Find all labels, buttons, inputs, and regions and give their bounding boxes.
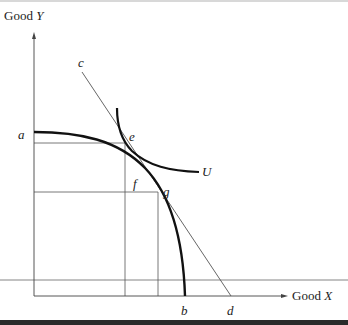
point-d-label: d: [227, 303, 234, 318]
point-g-label: g: [163, 184, 170, 199]
point-e-label: e: [129, 129, 135, 144]
bottom-border: [0, 320, 348, 325]
x-axis-arrow-icon: [281, 294, 288, 298]
y-axis-label: Good Y: [4, 8, 45, 23]
ppf-diagram: Good Y Good X a b c d e f g U: [0, 0, 348, 325]
point-a-label: a: [18, 127, 25, 142]
production-possibility-frontier: [34, 132, 185, 296]
y-axis-arrow-icon: [32, 32, 36, 39]
point-b-label: b: [181, 303, 188, 318]
point-f-label: f: [133, 176, 139, 191]
point-c-label: c: [78, 55, 84, 70]
x-axis-label: Good X: [292, 288, 333, 303]
guide-lines: [34, 143, 158, 296]
curve-u-label: U: [202, 164, 213, 179]
